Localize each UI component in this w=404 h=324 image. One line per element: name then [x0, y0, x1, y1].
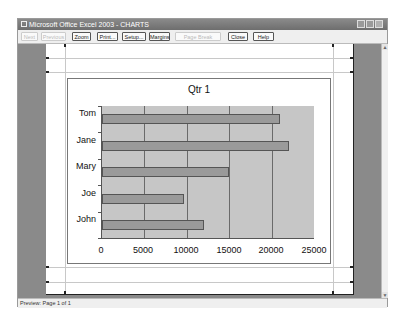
category-label: Jane: [76, 135, 96, 145]
restore-icon[interactable]: [366, 20, 374, 28]
bar-tom: [102, 114, 280, 124]
page-break-preview-button[interactable]: Page Break Preview: [175, 32, 221, 41]
bar-mary: [102, 167, 229, 177]
category-label: John: [76, 214, 96, 224]
gridline: [272, 106, 273, 238]
help-button[interactable]: Help: [253, 32, 274, 41]
margin-handle[interactable]: [46, 57, 49, 59]
x-tick-label: 0: [98, 245, 103, 255]
preview-page[interactable]: Qtr 1 Tom Jane Mary Joe John: [46, 44, 354, 295]
window-title: Microsoft Office Excel 2003 - CHARTS: [29, 19, 149, 30]
margin-handle[interactable]: [350, 281, 353, 283]
footer-margin-line[interactable]: [46, 282, 353, 283]
margin-handle[interactable]: [350, 71, 353, 73]
margins-button[interactable]: Margins: [149, 32, 170, 41]
category-label: Mary: [76, 161, 96, 171]
category-label: Tom: [79, 108, 96, 118]
top-margin-line[interactable]: [46, 72, 353, 73]
margin-handle[interactable]: [46, 266, 49, 268]
previous-button[interactable]: Previous: [41, 32, 66, 41]
x-tick-label: 20000: [258, 245, 283, 255]
margin-handle[interactable]: [332, 291, 334, 294]
setup-button[interactable]: Setup...: [122, 32, 146, 41]
zoom-button[interactable]: Zoom: [72, 32, 91, 41]
preview-area: Qtr 1 Tom Jane Mary Joe John: [18, 44, 381, 298]
close-button[interactable]: Close: [228, 32, 248, 41]
chart: Qtr 1 Tom Jane Mary Joe John: [67, 78, 331, 264]
margin-handle[interactable]: [350, 57, 353, 59]
x-tick-label: 10000: [173, 245, 198, 255]
axis-tick: [98, 132, 102, 133]
close-window-icon[interactable]: [375, 20, 383, 28]
axis-tick: [98, 159, 102, 160]
margin-handle[interactable]: [350, 266, 353, 268]
vertical-scrollbar[interactable]: ▲ ▼: [381, 44, 388, 298]
right-margin-line[interactable]: [333, 44, 334, 294]
print-preview-toolbar: Next Previous Zoom Print... Setup... Mar…: [18, 30, 387, 44]
x-tick-label: 25000: [301, 245, 326, 255]
axis-tick: [98, 238, 102, 239]
plot-area: [101, 106, 314, 239]
header-margin-line[interactable]: [46, 58, 353, 59]
bar-john: [102, 220, 204, 230]
status-text: Preview: Page 1 of 1: [20, 299, 71, 308]
bar-jane: [102, 141, 289, 151]
margin-handle[interactable]: [64, 291, 66, 294]
title-bar: Microsoft Office Excel 2003 - CHARTS: [18, 19, 387, 30]
axis-tick: [98, 106, 102, 107]
category-label: Joe: [81, 188, 96, 198]
scroll-up-icon[interactable]: ▲: [382, 44, 388, 50]
axis-tick: [98, 185, 102, 186]
axis-tick: [98, 212, 102, 213]
left-margin-line[interactable]: [65, 44, 66, 294]
print-button[interactable]: Print...: [97, 32, 118, 41]
margin-handle[interactable]: [332, 44, 334, 47]
margin-handle[interactable]: [64, 44, 66, 47]
next-button[interactable]: Next: [21, 32, 38, 41]
margin-handle[interactable]: [46, 71, 49, 73]
minimize-icon[interactable]: [357, 20, 365, 28]
status-bar: Preview: Page 1 of 1: [18, 298, 387, 308]
bottom-margin-line[interactable]: [46, 267, 353, 268]
x-tick-label: 5000: [133, 245, 153, 255]
chart-title: Qtr 1: [68, 84, 330, 95]
excel-print-preview-window: Microsoft Office Excel 2003 - CHARTS Nex…: [17, 18, 388, 307]
x-tick-label: 15000: [216, 245, 241, 255]
bar-joe: [102, 194, 184, 204]
margin-handle[interactable]: [46, 281, 49, 283]
excel-app-icon: [21, 21, 27, 27]
